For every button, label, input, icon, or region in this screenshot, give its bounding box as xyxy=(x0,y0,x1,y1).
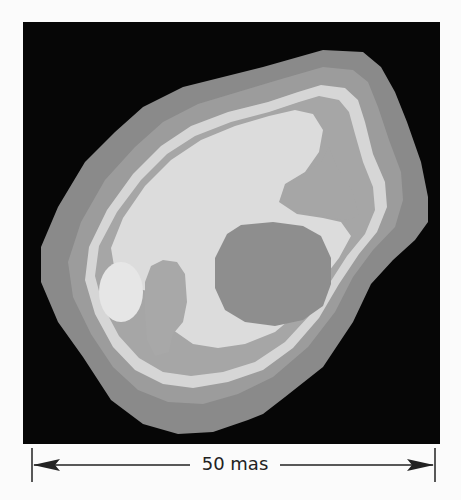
astronomical-image xyxy=(23,22,440,444)
left-bright-blob xyxy=(99,262,143,322)
contour-map xyxy=(23,22,440,444)
scale-label: 50 mas xyxy=(190,453,280,475)
central-cavity xyxy=(215,222,331,326)
